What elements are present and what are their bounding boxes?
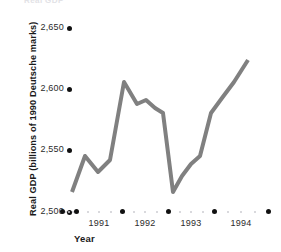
gdp-series-line [72,60,248,192]
x-minor-tick-dot [98,211,100,213]
x-minor-tick-dot [179,211,181,213]
x-minor-tick-dot [110,211,112,213]
x-minor-tick-dot [190,211,192,213]
x-minor-tick-dot [144,211,146,213]
x-minor-tick-dot [87,211,89,213]
x-major-tick-dot [212,209,217,214]
x-minor-tick-dot [240,211,242,213]
x-tick-label-1991: 1991 [79,218,119,228]
x-tick-label-1993: 1993 [171,218,211,228]
x-minor-tick-dot [202,211,204,213]
x-minor-tick-dot [68,211,70,213]
x-axis-title: Year [74,233,95,244]
x-minor-tick-dot [254,211,256,213]
x-major-tick-dot [74,209,79,214]
x-major-tick-dot [120,209,125,214]
x-major-tick-dot [60,209,65,214]
x-tick-label-1994: 1994 [221,218,261,228]
x-minor-tick-dot [65,211,67,213]
gdp-line-chart: Real GDP Real GDP (billions of 1990 Deut… [0,0,281,252]
x-tick-label-1992: 1992 [125,218,165,228]
x-minor-tick-dot [227,211,229,213]
x-minor-tick-dot [133,211,135,213]
x-minor-tick-dot [156,211,158,213]
x-major-tick-dot [166,209,171,214]
plot-area [0,0,281,252]
x-major-tick-dot [266,209,271,214]
